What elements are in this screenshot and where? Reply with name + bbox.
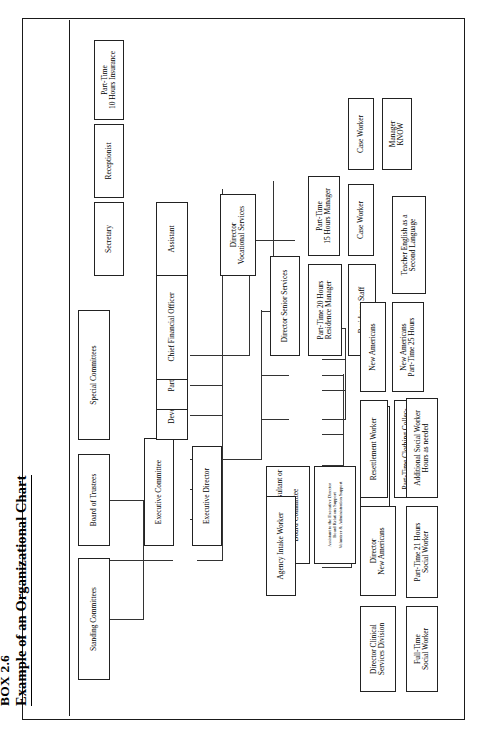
node-manager-know[interactable]: Manager KNOW [382,98,412,170]
connector [190,355,223,356]
node-teacher-english-second-language[interactable]: Teacher English as a Second Language [392,196,426,294]
node-agency-intake-worker[interactable]: Agency Intake Worker [266,496,296,596]
box-number: BOX 2.6 [0,475,12,706]
connector [110,500,144,501]
node-standing-committees[interactable]: Standing Committees [78,558,110,680]
connector [322,390,345,391]
connector [343,374,344,466]
org-chart: Standing Committees Board of Trustees Sp… [70,20,462,716]
node-director-senior-services[interactable]: Director Senior Services [270,256,300,356]
node-executive-director[interactable]: Executive Director [192,446,222,546]
connector [110,619,144,620]
box-title-block: BOX 2.6 Example of an Organizational Cha… [24,20,70,716]
connector [190,415,223,416]
connector [322,434,344,435]
connector [261,310,262,460]
connector [322,375,344,376]
node-full-time-social-worker[interactable]: Full-Time Social Worker [406,606,438,692]
org-chart-viewport: Standing Committees Board of Trustees Sp… [70,20,462,716]
node-case-worker-lower[interactable]: Case Worker [348,98,374,170]
connector [345,328,346,420]
connector [110,560,144,561]
node-assistant[interactable]: Assistant [156,202,188,276]
node-director-clinical-services-division[interactable]: Director Clinical Services Division [360,606,396,692]
node-board-of-trustees[interactable]: Board of Trustees [78,454,110,546]
connector [261,375,289,376]
node-director-vocational-services[interactable]: Director Vocational Services [220,194,256,276]
page-root: BOX 2.6 Example of an Organizational Cha… [0,0,483,735]
node-part-time-21-hours-social-worker[interactable]: Part-Time 21 Hours Social Worker [406,506,438,598]
node-part-time-20-residence-manager[interactable]: Part-Time 20 Hours Residence Manager [308,264,342,356]
connector [261,419,289,420]
node-assistant-to-executive-director[interactable]: Assistant to the Executive Director Boar… [314,466,356,564]
node-special-committees[interactable]: Special Committees [78,310,110,440]
node-part-time-insurance[interactable]: Part-Time 10 Hours Insurance [94,40,124,120]
node-additional-social-worker[interactable]: Additional Social Worker Hours as needed [406,398,438,498]
connector [273,240,295,241]
connector [190,385,223,386]
node-executive-committee[interactable]: Executive Committee [144,438,174,546]
connector [143,560,173,561]
node-director-new-americans[interactable]: Director New Americans [360,506,396,596]
connector [322,567,352,568]
connector [222,459,262,460]
node-part-time-15-hours-manager[interactable]: Part-Time 15 Hours Manager [308,176,340,256]
box-title-rotated: BOX 2.6 Example of an Organizational Cha… [0,475,32,706]
connector [222,355,250,356]
node-resettlement-worker[interactable]: Resettlement Worker [360,400,388,498]
node-chief-financial-officer[interactable]: Chief Financial Officer [156,274,188,380]
node-receptionist[interactable]: Receptionist [94,124,124,198]
connector [322,359,345,360]
node-secretary[interactable]: Secretary [94,202,124,276]
node-case-worker-upper[interactable]: Case Worker [348,184,374,256]
node-new-americans-part-time-25[interactable]: New Americans Part-Time 25 Hours [392,302,424,392]
node-new-americans[interactable]: New Americans [360,302,386,392]
connector [197,560,223,561]
page-title: Example of an Organizational Chart [13,475,32,706]
